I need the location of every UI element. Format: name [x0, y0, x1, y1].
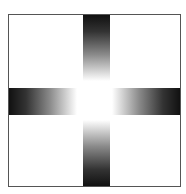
gradient-bar-bottom: [83, 120, 110, 186]
gradient-bar-top: [83, 15, 110, 81]
figure-frame: [8, 14, 181, 187]
caption-text: [0, 0, 186, 4]
gradient-bar-left: [9, 88, 77, 115]
gradient-bar-right: [112, 88, 180, 115]
